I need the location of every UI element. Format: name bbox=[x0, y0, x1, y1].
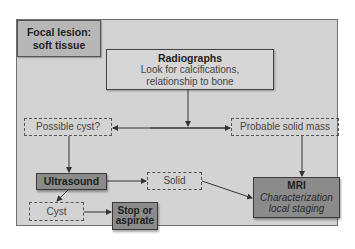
node-probable-solid-mass: Probable solid mass bbox=[231, 118, 339, 136]
arrow-ultrasound-to-cyst bbox=[57, 190, 68, 201]
probable-solid-mass-label: Probable solid mass bbox=[240, 121, 330, 133]
title-line-1: Focal lesion: bbox=[27, 26, 91, 38]
node-mri: MRI Characterization local staging bbox=[253, 177, 340, 218]
ultrasound-label: Ultrasound bbox=[44, 175, 99, 187]
node-possible-cyst: Possible cyst? bbox=[24, 118, 112, 136]
diagram-title: Focal lesion: soft tissue bbox=[17, 20, 101, 57]
possible-cyst-label: Possible cyst? bbox=[36, 121, 100, 133]
mri-line-2: local staging bbox=[269, 203, 325, 215]
arrow-solid-to-mri bbox=[202, 181, 252, 198]
radiographs-line-2: relationship to bone bbox=[146, 76, 233, 88]
solid-label: Solid bbox=[163, 175, 185, 187]
title-line-2: soft tissue bbox=[33, 39, 86, 51]
mri-heading: MRI bbox=[287, 180, 305, 192]
radiographs-heading: Radiographs bbox=[158, 52, 222, 64]
cyst-label: Cyst bbox=[47, 206, 67, 218]
node-ultrasound: Ultrasound bbox=[36, 173, 107, 190]
node-solid: Solid bbox=[147, 172, 202, 190]
node-cyst: Cyst bbox=[29, 202, 84, 221]
mri-line-1: Characterization bbox=[260, 192, 333, 204]
radiographs-line-1: Look for calcifications, bbox=[141, 64, 239, 76]
node-radiographs: Radiographs Look for calcifications, rel… bbox=[106, 49, 274, 90]
node-stop-or-aspirate: Stop or aspirate bbox=[112, 202, 158, 230]
stop-line-2: aspirate bbox=[116, 216, 154, 227]
